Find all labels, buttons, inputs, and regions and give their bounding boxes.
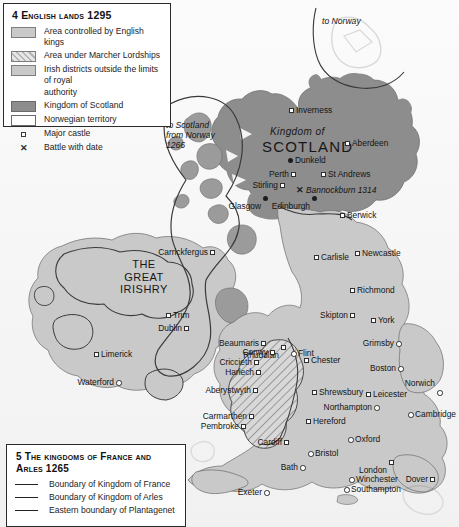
annotation-to-scotland-from-norway: to Scotland from Norway 1266 bbox=[166, 120, 215, 150]
legend-row-boundary-arles: Boundary of Kingdom of Arles bbox=[15, 492, 179, 503]
place-marker-trim[interactable] bbox=[166, 313, 171, 318]
legend-label-marcher-lordships: Area under Marcher Lordships bbox=[44, 50, 160, 61]
place-label-st-andrews: St Andrews bbox=[328, 170, 370, 179]
legend-row-irish-districts: Irish districts outside the limits of ro… bbox=[11, 64, 164, 86]
place-marker-criccieth[interactable] bbox=[254, 360, 259, 365]
rule-cell-plantagenet bbox=[15, 505, 41, 516]
place-marker-flint[interactable] bbox=[291, 351, 297, 357]
place-marker-cambridge[interactable] bbox=[408, 412, 414, 418]
place-label-pembroke: Pembroke bbox=[201, 422, 239, 431]
place-marker-boston[interactable] bbox=[398, 366, 404, 372]
place-label-conwy: Conwy bbox=[242, 348, 268, 357]
place-marker-carrickfergus[interactable] bbox=[210, 250, 215, 255]
place-marker-carlisle[interactable] bbox=[314, 255, 319, 260]
place-marker-hereford[interactable] bbox=[306, 419, 311, 424]
place-label-aberdeen: Aberdeen bbox=[352, 139, 388, 148]
symbol-cell-major-castle bbox=[11, 129, 36, 140]
battle-cross-icon: ✕ bbox=[20, 144, 28, 153]
place-marker-southampton[interactable] bbox=[344, 487, 350, 493]
place-marker-grimsby[interactable] bbox=[396, 341, 402, 347]
place-label-waterford: Waterford bbox=[78, 378, 114, 387]
legend-label-norwegian-territory: Norwegian territory bbox=[44, 114, 117, 125]
place-marker-norwich[interactable] bbox=[437, 390, 443, 396]
place-marker-skipton[interactable] bbox=[350, 313, 355, 318]
legend-row-norwegian-territory: Norwegian territory bbox=[11, 114, 164, 126]
place-label-skipton: Skipton bbox=[320, 311, 348, 320]
place-marker-london[interactable] bbox=[389, 460, 394, 465]
place-marker-shrewsbury[interactable] bbox=[312, 390, 317, 395]
place-label-criccieth: Criccieth bbox=[219, 358, 252, 367]
place-marker-exeter[interactable] bbox=[264, 490, 270, 496]
place-label-newcastle: Newcastle bbox=[362, 249, 401, 258]
place-marker-chester[interactable] bbox=[304, 358, 309, 363]
swatch-english-kings bbox=[11, 27, 36, 38]
place-marker-aberdeen[interactable] bbox=[345, 141, 350, 146]
place-label-grimsby: Grimsby bbox=[363, 339, 394, 348]
place-label-limerick: Limerick bbox=[101, 350, 132, 359]
place-marker-carmarthen[interactable] bbox=[249, 414, 254, 419]
place-marker-winchester[interactable] bbox=[349, 477, 355, 483]
place-marker-waterford[interactable] bbox=[116, 380, 122, 386]
place-label-carrickfergus: Carrickfergus bbox=[158, 248, 208, 257]
place-marker-limerick[interactable] bbox=[94, 352, 99, 357]
region-label-scotland: SCOTLAND bbox=[262, 139, 353, 154]
place-label-carmarthen: Carmarthen bbox=[203, 412, 247, 421]
place-marker-richmond[interactable] bbox=[350, 288, 355, 293]
place-label-bristol: Bristol bbox=[315, 449, 338, 458]
map-canvas: 4 English lands 1295 Area controlled by … bbox=[0, 0, 459, 527]
swatch-irish-districts bbox=[11, 65, 36, 76]
place-label-inverness: Inverness bbox=[296, 106, 332, 115]
legend-title-english-lands: 4 English lands 1295 bbox=[12, 9, 164, 21]
place-marker-perth[interactable] bbox=[291, 172, 296, 177]
swatch-marcher-lordships bbox=[11, 51, 36, 62]
legend-row-major-castle: Major castle bbox=[11, 128, 164, 140]
place-label-norwich: Norwich bbox=[405, 379, 435, 388]
legend-row-marcher-lordships: Area under Marcher Lordships bbox=[11, 50, 164, 62]
place-marker-edinburgh[interactable] bbox=[312, 196, 317, 201]
place-marker-dublin[interactable] bbox=[184, 326, 189, 331]
place-label-winchester: Winchester bbox=[356, 475, 398, 484]
place-label-harlech: Harlech bbox=[225, 368, 254, 377]
place-marker-cardiff[interactable] bbox=[284, 440, 289, 445]
place-marker-conwy[interactable] bbox=[270, 350, 275, 355]
place-marker-glasgow[interactable] bbox=[263, 196, 268, 201]
place-marker-bath[interactable] bbox=[300, 465, 306, 471]
place-marker-oxford[interactable] bbox=[348, 437, 354, 443]
legend-label-boundary-plantagenet: Eastern boundary of Plantagenet bbox=[49, 505, 175, 516]
place-label-northampton: Northampton bbox=[324, 403, 372, 412]
place-marker-berwick[interactable] bbox=[340, 213, 345, 218]
place-marker-aberystwyth[interactable] bbox=[253, 388, 258, 393]
place-marker-northampton[interactable] bbox=[374, 405, 380, 411]
place-label-chester: Chester bbox=[311, 356, 340, 365]
legend-row-kingdom-of-scotland: Kingdom of Scotland bbox=[11, 100, 164, 112]
place-marker-dover[interactable] bbox=[430, 477, 435, 482]
place-marker-newcastle[interactable] bbox=[355, 251, 360, 256]
symbol-cell-battle: ✕ bbox=[11, 143, 36, 154]
place-marker-dunkeld[interactable] bbox=[288, 158, 293, 163]
place-marker-bristol[interactable] bbox=[308, 451, 314, 457]
place-marker-harlech[interactable] bbox=[256, 370, 261, 375]
place-label-bath: Bath bbox=[281, 463, 298, 472]
swatch-norwegian-territory bbox=[11, 115, 36, 126]
place-marker-leicester[interactable] bbox=[366, 392, 371, 397]
place-label-dover: Dover bbox=[406, 475, 428, 484]
place-label-shrewsbury: Shrewsbury bbox=[319, 388, 363, 397]
legend-row-boundary-plantagenet: Eastern boundary of Plantagenet bbox=[15, 505, 179, 516]
battle-marker-bannockburn[interactable]: ✕ bbox=[296, 186, 304, 194]
legend-title-france-arles: 5 The kingdoms of France and Arles 1265 bbox=[16, 451, 179, 475]
place-marker-inverness[interactable] bbox=[289, 108, 294, 113]
place-marker-pembroke[interactable] bbox=[241, 424, 246, 429]
rule-cell-arles bbox=[15, 492, 41, 503]
place-label-dublin: Dublin bbox=[158, 324, 182, 333]
castle-icon bbox=[21, 132, 26, 137]
legend-row-english-kings: Area controlled by English kings bbox=[11, 26, 164, 48]
place-marker-stirling[interactable] bbox=[280, 183, 285, 188]
place-label-exeter: Exeter bbox=[238, 488, 262, 497]
place-label-glasgow: Glasgow bbox=[228, 202, 261, 211]
place-marker-rhuddlan[interactable] bbox=[281, 345, 286, 350]
place-label-cardiff: Cardiff bbox=[257, 438, 282, 447]
place-label-oxford: Oxford bbox=[355, 435, 380, 444]
place-marker-york[interactable] bbox=[371, 318, 376, 323]
place-marker-beaumaris[interactable] bbox=[261, 341, 266, 346]
place-marker-st-andrews[interactable] bbox=[321, 172, 326, 177]
